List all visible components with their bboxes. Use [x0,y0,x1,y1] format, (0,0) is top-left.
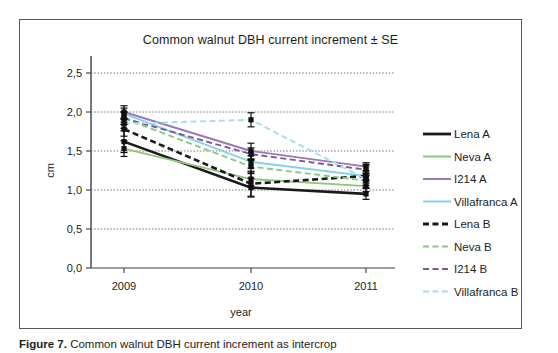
data-point-marker [121,121,126,126]
legend-item-label[interactable]: Neva A [454,151,491,163]
figure-caption: Figure 7. Common walnut DBH current incr… [19,338,539,353]
data-point-marker [248,117,253,122]
figure-panel: Common walnut DBH current increment ± SE… [19,19,522,329]
legend-item-label[interactable]: Neva B [454,241,492,253]
y-axis-title: cm [44,163,56,178]
series-line [124,112,366,167]
data-point-marker [121,146,126,151]
y-axis-tick-label: 2,5 [67,67,82,79]
data-point-marker [248,152,253,157]
y-axis-tick-label: 0,5 [67,223,82,235]
legend-item-label[interactable]: I214 B [454,263,488,275]
data-point-marker [363,176,368,181]
caption-label: Figure 7. [19,338,67,350]
legend-item-label[interactable]: Lena B [454,218,491,230]
legend-item-label[interactable]: Lena A [454,128,490,140]
caption-text: Common walnut DBH current increment as i… [67,338,337,350]
x-axis-tick-label: 2010 [239,280,263,292]
data-point-marker [363,167,368,172]
y-axis-tick-label: 2,0 [67,106,82,118]
x-axis-title: year [230,306,252,318]
x-axis-tick-label: 2011 [354,280,378,292]
chart-canvas: 0,00,51,01,52,02,5cm200920102011yearLena… [20,20,523,330]
legend-item-label[interactable]: I214 A [454,173,487,185]
y-axis-tick-label: 0,0 [67,262,82,274]
data-point-marker [248,181,253,186]
x-axis-tick-label: 2009 [112,280,136,292]
y-axis-tick-label: 1,5 [67,145,82,157]
data-point-marker [248,164,253,169]
legend-item-label[interactable]: Villafranca A [454,196,518,208]
y-axis-tick-label: 1,0 [67,184,82,196]
legend-item-label[interactable]: Villafranca B [454,286,519,298]
